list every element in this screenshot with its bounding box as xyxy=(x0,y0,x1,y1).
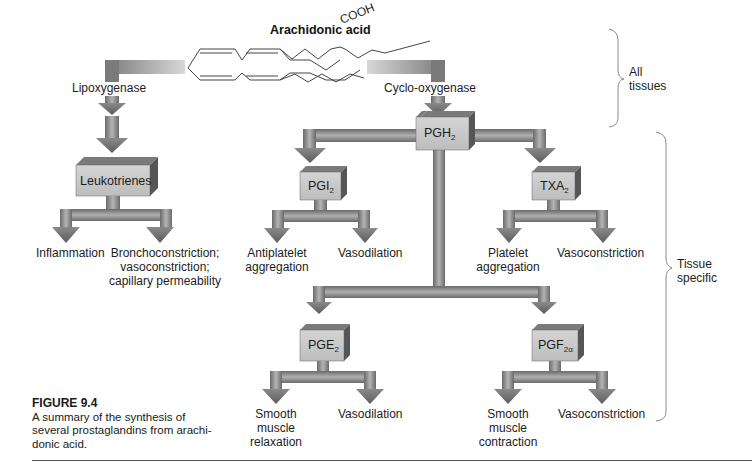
effect-bronchoconstriction: Bronchoconstriction; xyxy=(111,246,220,260)
figure-caption: FIGURE 9.4 A summary of the synthesis of… xyxy=(32,397,212,451)
cyclooxygenase-label: Cyclo-oxygenase xyxy=(384,81,476,95)
cyclooxygenase-pathway-arrow xyxy=(367,60,445,82)
pge2-node: PGE2 xyxy=(300,324,350,361)
effect-vasodilation-pgi2: Vasodilation xyxy=(338,246,403,260)
effect-antiplatelet-aggregation: aggregation xyxy=(245,260,308,274)
effect-platelet: Platelet xyxy=(488,246,529,260)
effect-vasoconstriction: vasoconstriction; xyxy=(120,260,209,274)
effect-relaxation: relaxation xyxy=(250,435,302,449)
arachidonic-acid-label: Arachidonic acid xyxy=(270,23,371,37)
lipoxygenase-label: Lipoxygenase xyxy=(72,81,146,95)
lipoxygenase-pathway-arrow xyxy=(105,60,185,82)
bottom-rule-divider xyxy=(32,460,752,461)
pgh2-lower-branch-bar xyxy=(313,286,550,298)
effect-smooth: Smooth xyxy=(255,407,296,421)
pgh2-stem xyxy=(433,145,445,292)
effect-vasodilation-pge2: Vasodilation xyxy=(338,407,403,421)
caption-line-1: A summary of the synthesis of xyxy=(32,411,212,425)
effect-inflammation: Inflammation xyxy=(36,246,105,260)
bracket-all-tissues xyxy=(609,29,624,127)
effect-muscle: muscle xyxy=(257,421,295,435)
bracket-tissue-specific xyxy=(656,132,672,421)
arrow-down-icon xyxy=(524,148,556,163)
pgf2a-node: PGF2α xyxy=(532,324,584,361)
tissue-specific-label-2: specific xyxy=(677,271,717,285)
figure-number: FIGURE 9.4 xyxy=(32,397,212,411)
pgh2-node: PGH2 xyxy=(416,111,475,150)
pgi2-node: PGI2 xyxy=(300,166,347,200)
caption-line-2: several prostaglandins from arachi- xyxy=(32,424,212,438)
pge2-split-arrow xyxy=(262,361,384,404)
all-tissues-label: All xyxy=(629,65,642,79)
pgi2-split-arrow xyxy=(264,200,378,243)
all-tissues-label-2: tissues xyxy=(629,79,666,93)
arrow-down-icon xyxy=(531,302,557,314)
effect-smooth-pgf: Smooth xyxy=(487,407,528,421)
leukotrienes-split-arrow xyxy=(52,196,174,243)
leukotrienes-label: Leukotrienes xyxy=(80,174,152,188)
arrow-down-icon xyxy=(96,96,128,153)
pgf2a-split-arrow xyxy=(494,361,616,404)
txa2-node: TXA2 xyxy=(532,166,581,200)
effect-muscle-pgf: muscle xyxy=(489,421,527,435)
tissue-specific-label: Tissue xyxy=(677,257,712,271)
txa2-split-arrow xyxy=(496,200,616,243)
arrow-down-icon xyxy=(306,302,332,314)
leukotrienes-node: Leukotrienes xyxy=(76,157,158,196)
caption-line-3: donic acid. xyxy=(32,438,212,452)
effect-vasoconstriction-txa2: Vasoconstriction xyxy=(557,246,644,260)
effect-vasoconstriction-pgf: Vasoconstriction xyxy=(558,407,645,421)
effect-contraction: contraction xyxy=(479,435,538,449)
effect-capillary-permeability: capillary permeability xyxy=(109,274,221,288)
effect-platelet-aggregation: aggregation xyxy=(476,260,539,274)
arrow-down-icon xyxy=(294,148,326,163)
effect-antiplatelet: Antiplatelet xyxy=(247,246,307,260)
